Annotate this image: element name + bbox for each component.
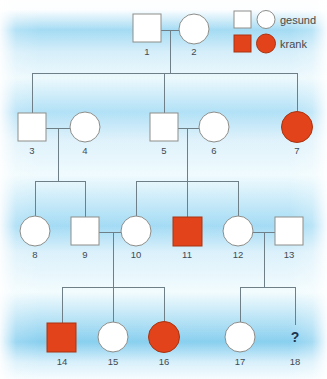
individual-12-symbol[interactable] (223, 216, 253, 246)
legend-krank-square-icon (234, 35, 251, 52)
individual-14-label: 14 (57, 356, 68, 367)
individual-10-label: 10 (131, 249, 142, 260)
individual-11-label: 11 (182, 249, 192, 260)
individual-14-symbol[interactable] (47, 323, 76, 352)
individual-2-label: 2 (191, 46, 196, 57)
individual-3-label: 3 (29, 145, 34, 156)
individual-16-symbol[interactable] (149, 322, 180, 353)
legend-gesund-label: gesund (280, 14, 316, 26)
individual-4-symbol[interactable] (70, 112, 100, 142)
individual-18-label: 18 (290, 356, 301, 367)
legend-krank-circle-icon (257, 34, 276, 53)
legend: gesund krank (234, 11, 316, 54)
individual-13-label: 13 (284, 249, 295, 260)
individual-15-label: 15 (108, 356, 119, 367)
pedigree-lines (32, 30, 297, 325)
individual-7-label: 7 (294, 145, 299, 156)
individual-6-symbol[interactable] (199, 112, 229, 142)
individual-10-symbol[interactable] (121, 216, 151, 246)
pedigree-figure: 1 2 3 4 5 6 7 8 9 10 11 12 (0, 0, 327, 379)
individual-3-symbol[interactable] (18, 113, 46, 141)
individual-1-symbol[interactable] (133, 14, 161, 42)
individual-6-label: 6 (211, 145, 216, 156)
individual-11-symbol[interactable] (173, 217, 202, 246)
pedigree-canvas: 1 2 3 4 5 6 7 8 9 10 11 12 (0, 0, 327, 379)
individual-8-label: 8 (32, 249, 37, 260)
individual-9-label: 9 (82, 249, 87, 260)
individual-7-symbol[interactable] (282, 112, 313, 143)
legend-krank-label: krank (280, 38, 307, 50)
legend-gesund-square-icon (234, 11, 251, 28)
individual-2-symbol[interactable] (179, 14, 209, 44)
individual-5-label: 5 (161, 145, 166, 156)
individual-17-label: 17 (235, 356, 246, 367)
individual-8-symbol[interactable] (20, 216, 50, 246)
legend-gesund-circle-icon (257, 11, 275, 29)
individual-5-symbol[interactable] (150, 113, 178, 141)
individual-18-unknown-symbol[interactable]: ? (291, 329, 300, 345)
individual-16-label: 16 (159, 356, 170, 367)
individual-15-symbol[interactable] (98, 322, 128, 352)
individual-9-symbol[interactable] (71, 217, 99, 245)
individual-12-label: 12 (233, 249, 244, 260)
individual-13-symbol[interactable] (275, 217, 303, 245)
individual-4-label: 4 (82, 145, 87, 156)
individual-1-label: 1 (144, 46, 149, 57)
individual-17-symbol[interactable] (225, 322, 255, 352)
